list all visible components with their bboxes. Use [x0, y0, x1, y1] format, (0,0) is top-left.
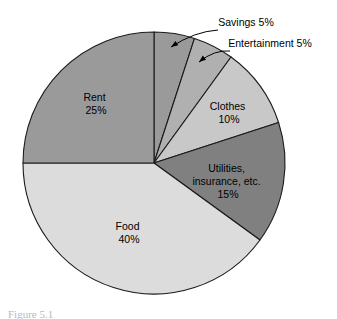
label-savings: Savings 5% — [218, 16, 273, 28]
label-rent: Rent 25% — [83, 91, 108, 116]
label-food: Food 40% — [116, 220, 143, 245]
pie-chart-figure: Savings 5% Entertainment 5% Clothes 10% … — [0, 0, 337, 319]
figure-caption-clipped: Figure 5.1 — [8, 309, 104, 319]
pie-chart-svg: Savings 5% Entertainment 5% Clothes 10% … — [0, 0, 337, 319]
label-entertainment: Entertainment 5% — [228, 37, 311, 49]
